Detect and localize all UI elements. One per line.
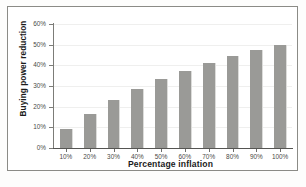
gridline: [54, 45, 292, 46]
bar[interactable]: [60, 129, 73, 148]
y-axis-tick-label: 10%: [26, 123, 46, 130]
bar[interactable]: [179, 71, 192, 149]
y-axis-tick-label: 50%: [26, 41, 46, 48]
x-axis-tick: [280, 149, 281, 152]
x-axis-tick: [66, 149, 67, 152]
y-axis-tick: [49, 45, 53, 46]
y-axis-tick: [49, 127, 53, 128]
y-axis-tick-label: 60%: [26, 20, 46, 27]
x-axis-tick: [209, 149, 210, 152]
y-axis-tick-label: 30%: [26, 82, 46, 89]
x-axis-tick: [161, 149, 162, 152]
bar[interactable]: [155, 79, 168, 148]
bar[interactable]: [131, 89, 144, 148]
bar[interactable]: [84, 114, 97, 149]
x-axis-tick: [137, 149, 138, 152]
y-axis-tick: [49, 148, 53, 149]
bar[interactable]: [250, 50, 263, 148]
plot-area: [54, 24, 292, 148]
y-axis-tick: [49, 86, 53, 87]
x-axis-tick: [256, 149, 257, 152]
bar[interactable]: [274, 45, 287, 148]
x-axis-tick: [185, 149, 186, 152]
y-axis-tick: [49, 107, 53, 108]
y-axis-tick: [49, 24, 53, 25]
y-axis-tick-label: 20%: [26, 103, 46, 110]
gridline: [54, 24, 292, 25]
y-axis-tick: [49, 65, 53, 66]
x-axis-tick: [114, 149, 115, 152]
x-axis-tick: [233, 149, 234, 152]
x-axis-tick: [90, 149, 91, 152]
figure-canvas: Buying power reduction Percentage inflat…: [0, 0, 306, 187]
y-axis-tick-label: 0%: [26, 144, 46, 151]
bar[interactable]: [227, 56, 240, 148]
bar[interactable]: [108, 100, 121, 148]
y-axis-tick-label: 40%: [26, 61, 46, 68]
chart-frame: Buying power reduction Percentage inflat…: [7, 6, 298, 171]
x-axis-tick-label: 100%: [265, 153, 295, 160]
bar[interactable]: [203, 63, 216, 148]
x-axis-title: Percentage inflation: [48, 159, 293, 169]
